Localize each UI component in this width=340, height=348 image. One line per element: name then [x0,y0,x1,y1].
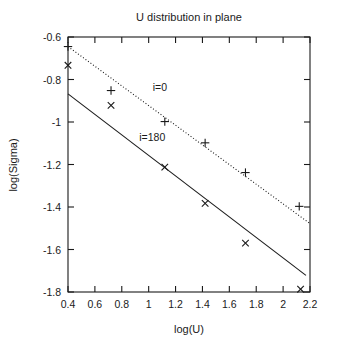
data-point-cross [162,164,169,171]
data-point-cross [108,102,115,109]
data-point-plus [107,86,115,94]
data-point-plus [64,42,72,50]
x-axis-label-group: log(U) [174,323,204,335]
series-annotation-i-180: i=180 [139,131,165,143]
x-axis-label: log(U) [174,323,204,335]
x-tick-label: 0.4 [61,298,76,310]
y-tick-label: -1.2 [43,159,61,171]
series-annotation-i-0: i=0 [153,81,167,93]
y-tick-label: -1.4 [43,201,61,213]
fit-lines-group [68,47,310,276]
series-annotations-group: i=0i=180 [139,81,167,143]
x-tick-label: 1.4 [195,298,210,310]
x-tick-label: 2.2 [303,298,318,310]
y-tick-label: -0.6 [43,31,61,43]
x-tick-label: 1.2 [168,298,183,310]
chart-container: U distribution in plane 0.40.60.811.21.4… [0,0,340,348]
y-axis-ticks [68,37,310,292]
y-axis-tick-labels: -0.6-0.8-1-1.2-1.4-1.6-1.8 [43,31,61,298]
data-point-plus [241,168,249,176]
plot-frame [68,37,310,292]
y-tick-label: -0.8 [43,74,61,86]
x-tick-label: 2 [280,298,286,310]
fit-line-i-180 [68,94,306,275]
x-axis-tick-labels: 0.40.60.811.21.41.61.822.2 [61,298,318,310]
fit-line-i-0 [68,47,310,224]
x-tick-label: 0.8 [114,298,129,310]
u-distribution-scatter-plot: U distribution in plane 0.40.60.811.21.4… [0,0,340,348]
data-point-plus [295,202,303,210]
chart-title: U distribution in plane [136,11,242,23]
data-point-plus [201,139,209,147]
y-axis-label: log(Sigma) [7,138,19,191]
y-tick-label: -1 [52,116,61,128]
y-tick-label: -1.8 [43,286,61,298]
y-tick-label: -1.6 [43,244,61,256]
data-point-cross [202,200,209,207]
chart-title-group: U distribution in plane [136,11,242,23]
x-tick-label: 1.8 [249,298,264,310]
data-point-plus [161,117,169,125]
x-tick-label: 1 [146,298,152,310]
x-tick-label: 1.6 [222,298,237,310]
x-axis-ticks [68,37,310,292]
x-tick-label: 0.6 [88,298,103,310]
y-axis-label-group: log(Sigma) [7,138,19,191]
data-markers-group [64,42,304,292]
data-point-cross [242,240,249,247]
